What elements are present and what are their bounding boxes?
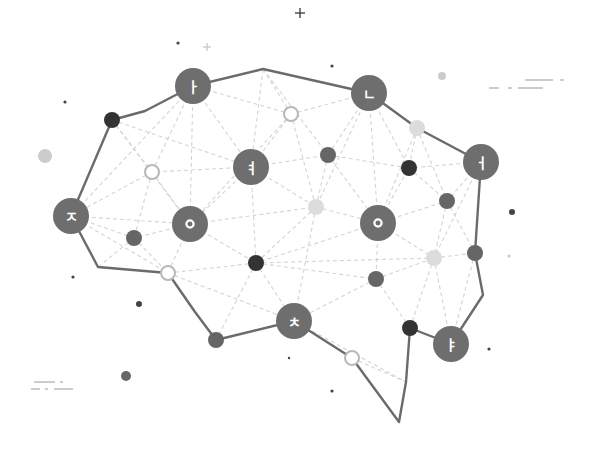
dashed-connection — [328, 155, 409, 168]
character-label: ㄴ — [363, 86, 376, 102]
hollow-node — [161, 266, 175, 280]
character-node-o2 — [360, 205, 396, 241]
dashed-connection — [134, 172, 152, 238]
character-label: ㅑ — [445, 337, 458, 353]
decor-dot — [438, 72, 446, 80]
dashed-connection — [256, 258, 434, 263]
character-label: ㅕ — [245, 160, 258, 176]
dashed-connection — [434, 201, 447, 258]
dashed-connection — [447, 201, 475, 253]
character-label: ㅏ — [187, 79, 200, 95]
decor-dot — [63, 100, 66, 103]
decor-dot — [71, 275, 74, 278]
character-nodes: ㅏㄴㅓㅕㅈㅊㅑ — [53, 68, 499, 362]
character-node-o1 — [172, 206, 208, 242]
decor-dot — [288, 357, 290, 359]
decor-dot — [509, 209, 515, 215]
dashed-connection — [417, 128, 447, 201]
character-node-circle — [172, 206, 208, 242]
character-label: ㅓ — [475, 155, 488, 171]
decor-dot — [487, 347, 490, 350]
character-node-yeo: ㅕ — [233, 149, 269, 185]
dashed-connection — [369, 93, 378, 223]
hollow-node — [145, 165, 159, 179]
character-node-eo: ㅓ — [463, 144, 499, 180]
dashed-connection — [168, 273, 294, 321]
decor-dot — [330, 64, 333, 67]
mid-node — [467, 245, 483, 261]
brain-network-illustration: ㅏㄴㅓㅕㅈㅊㅑ — [0, 0, 598, 452]
dashed-connection — [168, 263, 256, 273]
decor-dot — [121, 371, 131, 381]
dark-node — [104, 112, 120, 128]
character-label: ㅊ — [288, 314, 301, 330]
character-label: ㅈ — [65, 209, 78, 225]
plus-icon — [295, 8, 305, 18]
plus-icon — [203, 43, 211, 51]
mid-node — [126, 230, 142, 246]
decor-dot — [136, 301, 142, 307]
dashed-connection — [316, 155, 328, 207]
light-node — [409, 120, 425, 136]
dashed-connection — [256, 207, 316, 263]
character-node-a: ㅏ — [175, 68, 211, 104]
mid-node — [320, 147, 336, 163]
dashed-connection — [190, 86, 193, 224]
dashed-connection — [376, 258, 434, 279]
light-node — [426, 250, 442, 266]
decor-dot — [507, 254, 510, 257]
character-node-ya: ㅑ — [433, 326, 469, 362]
mid-node — [368, 271, 384, 287]
decor-dot — [330, 389, 333, 392]
dashed-connection — [216, 263, 256, 340]
dashed-connection — [376, 279, 410, 328]
character-node-ch: ㅊ — [276, 303, 312, 339]
dashed-connection — [256, 263, 376, 279]
dark-node — [248, 255, 264, 271]
character-node-n: ㄴ — [351, 75, 387, 111]
mid-node — [208, 332, 224, 348]
dashed-connection-lines — [71, 69, 481, 382]
hollow-node — [284, 107, 298, 121]
dashed-connection — [112, 120, 251, 167]
dark-node — [401, 160, 417, 176]
decor-dot — [38, 149, 52, 163]
dashed-connection — [71, 86, 193, 216]
character-node-j: ㅈ — [53, 198, 89, 234]
light-node — [308, 199, 324, 215]
character-node-circle — [360, 205, 396, 241]
dark-node — [402, 320, 418, 336]
dashed-connection — [410, 258, 434, 328]
mid-node — [439, 193, 455, 209]
hollow-node — [345, 351, 359, 365]
dashed-connection — [256, 223, 378, 263]
decor-dot — [176, 41, 179, 44]
